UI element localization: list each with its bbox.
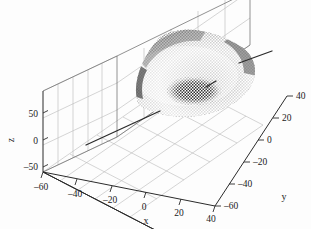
figure-3d-surface-plot: –50 0 50 z –60 –40 –20 0 20 40 x bbox=[0, 0, 311, 229]
x-tick-label: –40 bbox=[67, 189, 83, 199]
x-tick-label: 20 bbox=[174, 208, 184, 218]
y-tick-label: –60 bbox=[223, 201, 239, 211]
floor-projection-line bbox=[86, 111, 160, 145]
z-axis-title: z bbox=[5, 137, 16, 142]
surface-basin bbox=[167, 77, 221, 105]
x-axis-title: x bbox=[144, 215, 149, 226]
y-tick-label: –40 bbox=[237, 179, 253, 189]
x-tick-label: –20 bbox=[102, 195, 118, 205]
x-tick-label: –60 bbox=[33, 182, 49, 192]
surface-mesh bbox=[120, 15, 270, 130]
z-axis: –50 0 50 z bbox=[5, 91, 48, 172]
z-tick-label: 50 bbox=[29, 109, 39, 119]
y-axis-title: y bbox=[282, 191, 287, 202]
x-axis: –60 –40 –20 0 20 40 x bbox=[33, 172, 217, 229]
y-tick-label: 40 bbox=[296, 91, 306, 101]
y-tick-label: 0 bbox=[267, 135, 272, 145]
z-tick-label: 0 bbox=[33, 136, 38, 146]
surface-plot-canvas: –50 0 50 z –60 –40 –20 0 20 40 x bbox=[0, 0, 311, 229]
x-tick-label: 40 bbox=[206, 214, 216, 224]
z-tick-label: –50 bbox=[23, 162, 39, 172]
y-tick-label: 20 bbox=[282, 113, 292, 123]
y-axis: –60 –40 –20 0 20 40 y bbox=[215, 91, 306, 211]
y-tick-label: –20 bbox=[252, 157, 268, 167]
x-tick-label: 0 bbox=[142, 202, 147, 212]
